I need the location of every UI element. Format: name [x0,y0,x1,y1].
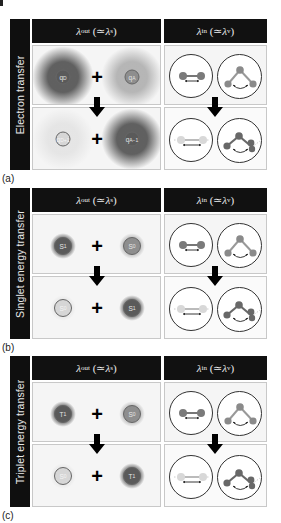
bent-triatomic-molecule-icon [218,119,263,164]
diatomic-molecule-icon [170,119,214,163]
bent-triatomic-molecule-icon [218,456,263,501]
triatomic-bending-circle [217,118,262,163]
plus-icon: + [91,466,103,486]
header-lambda-in: λin (≃λv) [164,188,267,212]
panel-title: Electron transfer [14,55,26,134]
plus-icon: + [91,298,103,318]
header-lambda-out: λout (≃λs) [32,356,161,380]
plus-icon: + [91,236,103,256]
down-arrow-icon [206,266,224,286]
diatomic-vibration-circle [169,118,213,162]
state-s1: S1 [54,237,72,255]
diatomic-molecule-icon [170,392,214,436]
header-lambda-in: λin (≃λv) [164,19,267,43]
diatomic-vibration-circle [169,455,213,499]
triatomic-bending-circle [217,287,262,332]
panel-a: Electron transfer λout (≃λs) λin (≃λv) q… [10,19,267,170]
state-s0: S0 [54,299,72,317]
diatomic-molecule-icon [170,55,214,99]
panel-label-c: (c) [2,510,14,521]
diatomic-vibration-circle [169,391,213,435]
header-lambda-out: λout (≃λs) [32,19,161,43]
down-arrow-icon [88,266,106,286]
state-t1: T1 [54,405,72,423]
state-s1: S1 [123,299,141,317]
header-lambda-in: λin (≃λv) [164,356,267,380]
down-arrow-icon [88,97,106,117]
diatomic-vibration-circle [169,54,213,98]
triatomic-bending-circle [217,223,262,268]
panel-b: Singlet energy transfer λout (≃λs) λin (… [10,188,267,339]
state-s0: S0 [54,467,72,485]
outer-before-cell: S1+S0 [32,214,161,274]
triatomic-bending-circle [217,54,262,99]
outer-before-cell: T1+S0 [32,382,161,442]
state-qd1: qD+1 [56,132,71,147]
panel-side-title: Triplet energy transfer [10,356,30,507]
diatomic-molecule-icon [170,288,214,332]
diatomic-molecule-icon [170,224,214,268]
panel-title: Singlet energy transfer [14,210,26,318]
header-lambda-out: λout (≃λs) [32,188,161,212]
plus-icon: + [91,404,103,424]
outer-before-cell: qD+qA [32,45,161,105]
state-t1: T1 [123,467,141,485]
triatomic-bending-circle [217,455,262,500]
down-arrow-icon [206,434,224,454]
panel-side-title: Singlet energy transfer [10,188,30,339]
diatomic-vibration-circle [169,287,213,331]
diatomic-vibration-circle [169,223,213,267]
panel-label-a: (a) [2,173,14,184]
bent-triatomic-molecule-icon [218,55,263,100]
panel-label-b: (b) [2,342,14,353]
corner-mark [0,0,3,6]
bent-triatomic-molecule-icon [218,288,263,333]
down-arrow-icon [88,434,106,454]
inner-before-cell [164,45,267,105]
panel-title: Triplet energy transfer [14,379,26,484]
triatomic-bending-circle [217,391,262,436]
bent-triatomic-molecule-icon [218,392,263,437]
inner-before-cell [164,214,267,274]
down-arrow-icon [206,97,224,117]
bent-triatomic-molecule-icon [218,224,263,269]
panel-c: Triplet energy transfer λout (≃λs) λin (… [10,356,267,507]
state-qa1: qA−1 [125,132,140,147]
inner-before-cell [164,382,267,442]
state-qa: qA [125,70,140,85]
state-s0: S0 [123,237,141,255]
state-qd: qD [56,70,71,85]
state-s0: S0 [123,405,141,423]
diatomic-molecule-icon [170,456,214,500]
panel-side-title: Electron transfer [10,19,30,170]
